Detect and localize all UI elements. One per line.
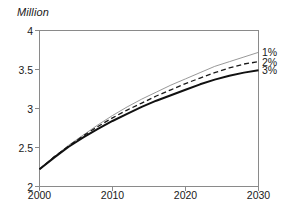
y-tick-label: 3 xyxy=(27,104,33,115)
series-line-1pct xyxy=(40,52,259,169)
y-tick-label: 4 xyxy=(27,26,33,37)
chart-figure: Million 22.533.54 2000201020202030 1%2%3… xyxy=(0,0,292,214)
series-line-3pct xyxy=(40,70,259,169)
line-chart-plot xyxy=(0,0,292,214)
x-tick-label: 2020 xyxy=(156,190,216,201)
y-tick-label: 3.5 xyxy=(18,65,33,76)
x-tick-label: 2030 xyxy=(229,190,289,201)
y-tick-label: 2.5 xyxy=(18,143,33,154)
x-tick-label: 2010 xyxy=(83,190,143,201)
series-label-3pct: 3% xyxy=(262,65,277,76)
x-tick-label: 2000 xyxy=(10,190,70,201)
series-line-2pct xyxy=(40,62,259,170)
